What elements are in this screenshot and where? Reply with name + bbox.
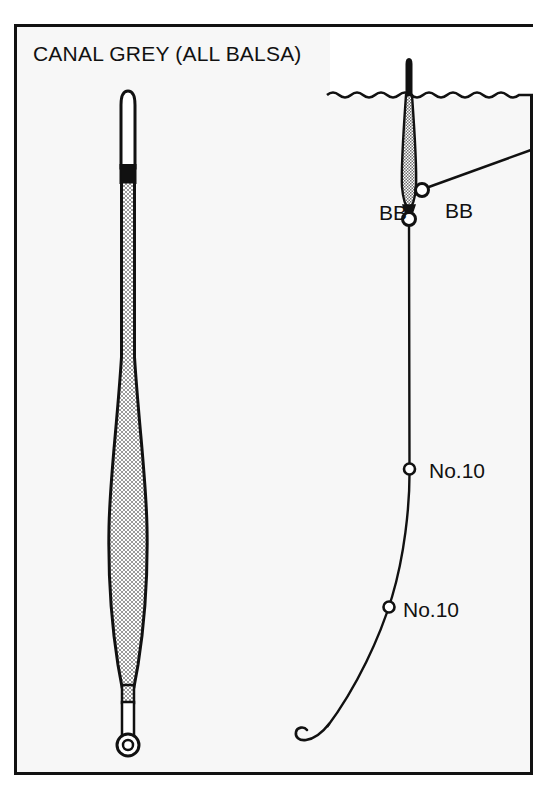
float-sight-band	[121, 165, 136, 183]
rig-hooklength-line	[327, 468, 410, 727]
waterline	[327, 93, 533, 98]
rig-shot-pointer-line	[426, 150, 531, 188]
shot-label-bb-on-line: BB	[379, 201, 407, 225]
shot-label-no10-upper: No.10	[429, 459, 485, 483]
float-profile-drawing	[109, 91, 147, 756]
float-tip	[121, 91, 135, 168]
diagram-plate: CANAL GREY (ALL BALSA) BB BB No.10 No.10	[14, 24, 533, 775]
rig-float-antenna	[407, 59, 412, 95]
shot-label-bb-pointer: BB	[445, 199, 473, 223]
plate-inner: CANAL GREY (ALL BALSA) BB BB No.10 No.10	[17, 27, 530, 772]
page-title: CANAL GREY (ALL BALSA)	[33, 42, 302, 66]
shot-bb-pointer	[416, 184, 429, 197]
rig-main-line	[409, 210, 410, 468]
shot-no10-lower	[384, 602, 395, 613]
rig-drawing	[296, 59, 533, 740]
shot-label-no10-lower: No.10	[403, 598, 459, 622]
float-body	[109, 182, 147, 687]
diagram-artwork	[17, 27, 533, 775]
rig-hook	[296, 724, 329, 740]
float-body-collar	[122, 685, 134, 703]
rig-float-body	[402, 95, 417, 210]
shot-no10-upper	[404, 464, 415, 475]
float-diagram-page: CANAL GREY (ALL BALSA) BB BB No.10 No.10	[0, 0, 543, 788]
float-eye-inner	[123, 740, 133, 750]
